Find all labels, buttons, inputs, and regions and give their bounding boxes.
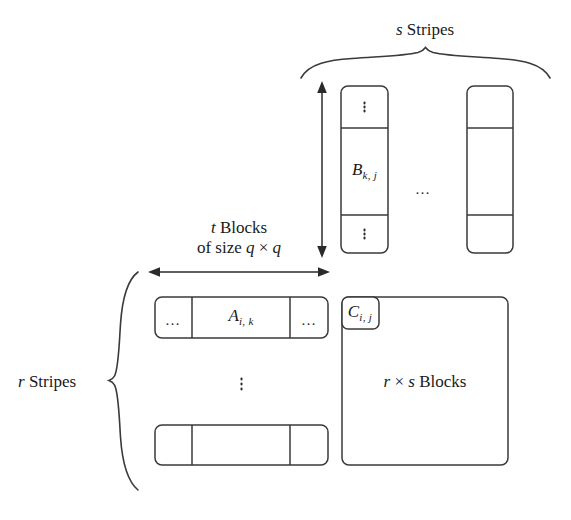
t-blocks-line-2: of size q × q	[197, 238, 281, 258]
matrix-a-cell-right-dots: …	[301, 312, 317, 329]
vertical-dimension-arrow	[317, 81, 327, 258]
left-brace	[109, 272, 138, 490]
matrix-a-row-2	[155, 425, 328, 465]
matrix-b-cell-bottom-dots	[363, 229, 366, 240]
t-blocks-q1: q	[246, 238, 255, 257]
matrix-a-letter: A	[228, 306, 239, 325]
matrix-c-cell-label: Ci, j	[348, 302, 372, 324]
matrix-b-cell-label: Bk, j	[352, 160, 377, 182]
matrix-c-r-variable: r	[384, 372, 391, 391]
top-brace	[301, 48, 550, 79]
s-stripes-caption: s Stripes	[396, 20, 454, 40]
matrix-a-cell-left-dots: …	[165, 312, 181, 329]
matrix-c-subscript: i, j	[359, 311, 372, 323]
matrix-a-subscript: i, k	[239, 315, 254, 327]
matrix-b-between-stripes-dots: …	[415, 181, 431, 198]
t-blocks-q2: q	[273, 238, 282, 257]
horizontal-dimension-arrow	[148, 267, 330, 277]
matrix-c-letter: C	[348, 302, 360, 321]
matrix-a-between-rows-dots	[240, 378, 243, 391]
t-blocks-times: ×	[255, 238, 273, 257]
t-blocks-text: Blocks	[216, 218, 267, 237]
s-stripes-text: Stripes	[403, 20, 454, 39]
diagram-vector-layer	[0, 0, 571, 520]
matrix-a-cell-label: Ai, k	[228, 306, 253, 328]
matrix-c-inner-caption: r × s Blocks	[384, 372, 467, 392]
matrix-c-blocks-text: Blocks	[415, 372, 466, 391]
t-blocks-caption: t Blocks of size q × q	[197, 218, 281, 258]
t-blocks-line-1: t Blocks	[197, 218, 281, 238]
matrix-b-letter: B	[352, 160, 363, 179]
matrix-c-times: ×	[390, 372, 408, 391]
r-stripes-variable: r	[18, 372, 25, 391]
t-blocks-size-prefix: of size	[197, 238, 246, 257]
matrix-b-subscript: k, j	[362, 169, 377, 181]
s-stripes-variable: s	[396, 20, 403, 39]
matrix-b-stripe-2	[467, 86, 513, 253]
r-stripes-caption: r Stripes	[18, 372, 76, 392]
matrix-block-diagram: s Stripes r Stripes t Blocks of size q ×…	[0, 0, 571, 520]
matrix-b-cell-top-dots	[363, 102, 366, 113]
r-stripes-text: Stripes	[25, 372, 76, 391]
